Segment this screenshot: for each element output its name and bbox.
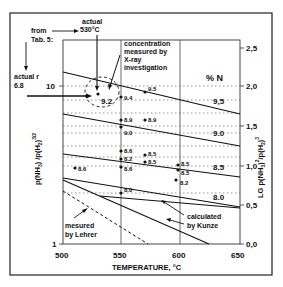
left-tick-1: 1 [52, 240, 57, 249]
point-label-8.5b: 8.5 [148, 159, 157, 165]
point-label-8.5a: 8.5 [148, 151, 157, 157]
point-label-9.5: 9.5 [148, 86, 157, 92]
left-axis-title: p(NH3) /p(H2)3/2 [31, 133, 43, 185]
arrowhead-530 [95, 86, 99, 91]
annotation-xray-3: X-ray [124, 56, 142, 64]
chart-figure: 2,5 2,0 1,5 1,0 0,5 0,0 10 1 500 550 600… [0, 0, 283, 287]
annotation-lehrer-1: mesured [65, 222, 94, 229]
annotation-from-2: Tab. 5: [31, 36, 53, 43]
legend-title: % N [206, 73, 223, 83]
point-label-8.9b: 8.9 [148, 117, 157, 123]
annotation-xray-4: investigation [124, 64, 167, 72]
arrowhead-from [74, 29, 79, 33]
arrow-xray [110, 55, 120, 86]
x-tick-600: 600 [172, 251, 186, 260]
arrowhead-down-tab5 [24, 66, 28, 71]
right-axis-ticks [240, 48, 244, 244]
annotation-actual-temp-2: 530°C [80, 26, 100, 33]
annotation-lehrer-2: by Lehrer [65, 231, 97, 239]
data-points [73, 90, 179, 194]
x-tick-650: 650 [231, 251, 245, 260]
arrowhead-lehrer [82, 208, 88, 213]
right-tick-2.0: 2,0 [246, 82, 258, 91]
curve-label-8.0: 8.0 [213, 193, 225, 202]
arrowhead-xray [108, 84, 112, 90]
annotation-kunze-2: by Kunze [187, 222, 218, 230]
annotation-kunze-1: calculated [187, 213, 221, 220]
annotation-from-1: from [31, 27, 47, 34]
arrow-kunze-1 [164, 202, 184, 215]
x-tick-500: 500 [55, 251, 69, 260]
arrowhead-kunze-1 [161, 200, 166, 204]
right-tick-1.5: 1,5 [246, 122, 258, 131]
point-label-8.5c: 8.5 [181, 161, 190, 167]
annotation-actual-r-2: 6.8 [14, 82, 24, 89]
point-label-8.2a: 8.2 [124, 156, 133, 162]
annotation-xray-1: concentration [124, 40, 170, 47]
point-label-8.6c: 8.6 [78, 166, 87, 172]
point-label-8.6b: 8.6 [124, 166, 133, 172]
x-tick-550: 550 [113, 251, 127, 260]
point-label-8.2b: 8.2 [180, 180, 189, 186]
right-tick-0.0: 0,0 [246, 240, 258, 249]
left-axis-ticks [59, 86, 63, 244]
right-tick-2.5: 2,5 [246, 44, 258, 53]
curve-label-9.5: 9,5 [213, 97, 225, 106]
arrowhead-actual-r [86, 94, 92, 99]
point-label-9.4: 9.4 [124, 95, 133, 101]
annotation-actual-temp-1: actual [82, 18, 102, 25]
point-label-9.2: 9.2 [101, 97, 113, 106]
left-tick-10: 10 [46, 82, 55, 91]
annotation-xray-2: measured by [124, 48, 167, 56]
x-axis-title: TEMPERATURE, °C [112, 263, 182, 272]
right-tick-0.5: 0,5 [246, 201, 258, 210]
arrow-kunze-2 [170, 220, 184, 224]
point-label-8.9a: 8.9 [124, 117, 133, 123]
point-label-9.0: 9.0 [124, 130, 133, 136]
curve-label-9.0: 9.0 [213, 129, 225, 138]
point-labels: 9.2 9.4 9.5 8.9 8.9 9.0 8.6 8.2 8.6 8.5 … [78, 86, 190, 193]
curve-label-8.5: 8.5 [213, 163, 225, 172]
point-label-8.0: 8.0 [124, 187, 133, 193]
point-label-8.6a: 8.6 [124, 148, 133, 154]
point-label-8.5d: 8.5 [181, 170, 190, 176]
arrowhead-kunze-2 [166, 218, 171, 222]
annotation-actual-r-1: actual r [14, 73, 39, 80]
